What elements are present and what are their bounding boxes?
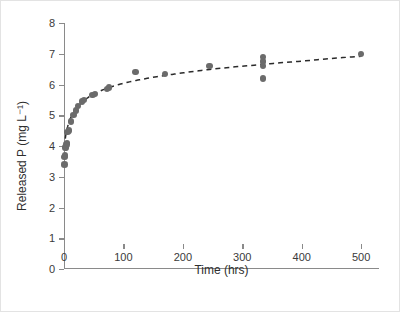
x-tick xyxy=(183,244,184,249)
y-tick xyxy=(59,85,64,86)
plot-area: 012345678 Time (hrs) 0100200300400500 xyxy=(64,23,379,269)
y-tick-label: 0 xyxy=(49,263,55,275)
data-point xyxy=(106,84,112,90)
y-tick-label: 7 xyxy=(49,48,55,60)
x-tick-label: 0 xyxy=(61,251,67,263)
x-tick-label: 400 xyxy=(293,251,311,263)
x-tick-label: 500 xyxy=(352,251,370,263)
y-axis-label: Released P (mg L⁻¹) xyxy=(15,101,29,211)
x-tick xyxy=(242,244,243,249)
y-tick-label: 6 xyxy=(49,79,55,91)
y-tick xyxy=(59,177,64,178)
y-tick-label: 1 xyxy=(49,232,55,244)
data-point xyxy=(206,63,212,69)
data-point xyxy=(61,161,67,167)
y-tick-label: 2 xyxy=(49,202,55,214)
x-tick xyxy=(64,244,65,249)
y-tick-label: 5 xyxy=(49,109,55,121)
x-axis-label: Time (hrs) xyxy=(194,263,248,277)
data-point xyxy=(260,75,266,81)
data-point xyxy=(260,63,266,69)
data-point xyxy=(358,51,364,57)
x-tick xyxy=(302,244,303,249)
y-tick xyxy=(59,208,64,209)
data-point xyxy=(162,71,168,77)
data-point xyxy=(66,127,72,133)
x-tick xyxy=(361,244,362,249)
x-tick-label: 300 xyxy=(233,251,251,263)
y-tick-label: 8 xyxy=(49,17,55,29)
y-tick xyxy=(59,238,64,239)
data-point xyxy=(68,118,74,124)
y-tick-label: 3 xyxy=(49,171,55,183)
figure-container: Released P (mg L⁻¹) 012345678 Time (hrs)… xyxy=(0,0,400,312)
data-point xyxy=(92,91,98,97)
y-tick-label: 4 xyxy=(49,140,55,152)
x-axis-ticks: Time (hrs) 0100200300400500 xyxy=(64,244,379,270)
x-tick-label: 100 xyxy=(114,251,132,263)
y-tick xyxy=(59,115,64,116)
data-point xyxy=(81,97,87,103)
data-point xyxy=(132,69,138,75)
fit-curve xyxy=(64,23,379,269)
y-tick xyxy=(59,23,64,24)
y-tick xyxy=(59,54,64,55)
x-tick xyxy=(123,244,124,249)
x-tick-label: 200 xyxy=(174,251,192,263)
